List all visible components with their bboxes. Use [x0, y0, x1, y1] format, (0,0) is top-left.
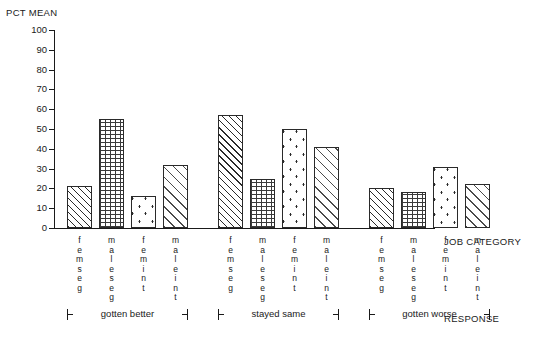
bracket-line-left — [369, 314, 375, 315]
group-bracket-gotten-worse: gotten worse — [369, 308, 490, 320]
bracket-line-right — [182, 314, 188, 315]
category-label-gotten-better-maleseg: maleseg — [104, 236, 120, 303]
y-axis-line — [54, 30, 55, 229]
y-tick-label-20: 20 — [36, 184, 47, 194]
bar-gotten-better-maleint — [163, 165, 188, 228]
y-tick-label-60: 60 — [36, 104, 47, 114]
y-tick-label-90: 90 — [36, 45, 47, 55]
y-tick-50 — [49, 129, 54, 130]
category-label-gotten-better-femint: femint — [136, 236, 152, 293]
bar-stayed-same-maleseg — [250, 179, 275, 229]
group-bracket-label-gotten-worse: gotten worse — [369, 308, 490, 320]
group-bracket-label-stayed-same: stayed same — [218, 308, 339, 320]
bar-stayed-same-maleint — [314, 147, 339, 228]
bracket-line-left — [218, 314, 224, 315]
bar-gotten-better-femint — [131, 196, 156, 228]
y-tick-label-0: 0 — [42, 223, 47, 233]
category-label-gotten-worse-femint: femint — [438, 236, 454, 293]
bar-gotten-worse-maleseg — [401, 192, 426, 228]
y-tick-60 — [49, 109, 54, 110]
bracket-line-right — [333, 314, 339, 315]
category-label-stayed-same-femint: femint — [287, 236, 303, 293]
category-label-stayed-same-femseg: femseg — [223, 236, 239, 293]
bracket-line-left — [67, 314, 73, 315]
bar-gotten-worse-femint — [433, 167, 458, 228]
plot-area: 1009080706050403020100 — [54, 30, 435, 229]
y-tick-label-10: 10 — [36, 203, 47, 213]
y-tick-label-70: 70 — [36, 85, 47, 95]
category-label-gotten-worse-femseg: femseg — [374, 236, 390, 293]
bar-gotten-better-femseg — [67, 186, 92, 228]
group-bracket-stayed-same: stayed same — [218, 308, 339, 320]
bar-stayed-same-femseg — [218, 115, 243, 228]
y-axis-title: PCT MEAN — [6, 7, 57, 18]
y-tick-70 — [49, 89, 54, 90]
y-tick-90 — [49, 50, 54, 51]
y-tick-label-40: 40 — [36, 144, 47, 154]
y-tick-label-30: 30 — [36, 164, 47, 174]
y-tick-80 — [49, 70, 54, 71]
y-tick-40 — [49, 149, 54, 150]
bracket-line-right — [484, 314, 490, 315]
category-label-stayed-same-maleseg: maleseg — [255, 236, 271, 303]
category-label-gotten-better-maleint: maleint — [168, 236, 184, 303]
category-label-stayed-same-maleint: maleint — [319, 236, 335, 303]
bar-gotten-worse-femseg — [369, 188, 394, 228]
chart-root: PCT MEAN JOB CATEGORY RESPONSE 100908070… — [0, 0, 542, 344]
y-tick-label-80: 80 — [36, 65, 47, 75]
bar-gotten-better-maleseg — [99, 119, 124, 228]
bar-gotten-worse-maleint — [465, 184, 490, 228]
y-tick-0 — [49, 228, 54, 229]
x-axis-line — [54, 228, 435, 229]
group-bracket-label-gotten-better: gotten better — [67, 308, 188, 320]
y-tick-30 — [49, 169, 54, 170]
y-tick-label-50: 50 — [36, 124, 47, 134]
y-tick-20 — [49, 188, 54, 189]
bar-stayed-same-femint — [282, 129, 307, 228]
category-label-gotten-better-femseg: femseg — [72, 236, 88, 293]
category-label-gotten-worse-maleseg: maleseg — [406, 236, 422, 303]
group-bracket-gotten-better: gotten better — [67, 308, 188, 320]
y-tick-10 — [49, 208, 54, 209]
y-tick-100 — [49, 30, 54, 31]
y-tick-label-100: 100 — [31, 25, 47, 35]
category-label-gotten-worse-maleint: maleint — [470, 236, 486, 303]
